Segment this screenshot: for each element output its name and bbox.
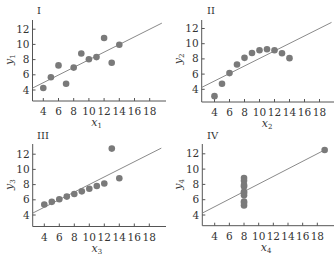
- anscombe-quartet-chart: 46810121416184681012Ix1y1 46810121416184…: [0, 0, 336, 261]
- y-tick-label: 10: [16, 38, 29, 50]
- data-point: [256, 47, 263, 54]
- data-point: [101, 180, 108, 187]
- y-tick-label: 8: [192, 52, 199, 64]
- data-point: [93, 54, 100, 61]
- x-tick-label: 6: [226, 230, 233, 242]
- data-point: [321, 147, 328, 154]
- x-tick-label: 8: [70, 105, 77, 117]
- y-tick-label: 12: [16, 148, 29, 160]
- data-point: [108, 59, 115, 66]
- data-point: [86, 56, 93, 63]
- x-axis-label: x3: [91, 242, 102, 256]
- data-point: [64, 193, 71, 200]
- x-tick-label: 16: [296, 230, 310, 242]
- x-tick-label: 16: [128, 105, 142, 117]
- data-point: [86, 185, 93, 192]
- data-point: [286, 55, 293, 62]
- data-point: [79, 188, 86, 195]
- y-tick-label: 4: [23, 84, 30, 96]
- data-point: [63, 80, 70, 87]
- y-tick-label: 4: [193, 209, 200, 221]
- y-tick-label: 8: [23, 53, 30, 65]
- y-tick-label: 6: [193, 193, 200, 205]
- panel-4: 46810121416184681012IVx4y4: [172, 130, 334, 255]
- x-tick-label: 18: [143, 105, 156, 117]
- x-tick-label: 12: [97, 105, 110, 117]
- y-tick-label: 12: [185, 22, 198, 34]
- y-tick-label: 6: [23, 193, 30, 205]
- data-point: [71, 191, 78, 198]
- y-axis-label: y4: [172, 179, 186, 191]
- data-point: [211, 93, 218, 100]
- panel-title: II: [207, 5, 215, 16]
- data-point: [101, 35, 108, 42]
- y-axis-label: y1: [3, 54, 17, 66]
- panel-title: I: [37, 5, 41, 16]
- data-point: [56, 196, 63, 203]
- x-tick-label: 4: [211, 106, 218, 118]
- x-axis-label: x2: [262, 117, 273, 131]
- x-tick-label: 6: [56, 231, 63, 243]
- y-tick-label: 4: [192, 83, 199, 95]
- data-point: [40, 85, 47, 92]
- x-tick-label: 16: [128, 231, 142, 243]
- y-axis-label: y3: [3, 179, 17, 191]
- regression-line: [202, 149, 326, 213]
- data-point: [109, 145, 116, 152]
- y-tick-label: 10: [186, 163, 199, 175]
- data-point: [241, 55, 248, 62]
- data-point: [49, 199, 56, 206]
- data-point: [241, 190, 248, 197]
- x-tick-label: 16: [298, 106, 312, 118]
- x-tick-label: 18: [311, 230, 324, 242]
- data-point: [226, 70, 233, 77]
- x-tick-label: 8: [241, 106, 248, 118]
- x-tick-label: 4: [41, 231, 48, 243]
- data-point: [55, 62, 62, 69]
- panel-title: IV: [207, 130, 219, 141]
- x-tick-label: 14: [113, 105, 127, 117]
- panel-2: 46810121416184681012IIx2y2: [172, 5, 334, 131]
- x-axis-label: x4: [261, 241, 272, 255]
- y-axis-label: y2: [172, 54, 186, 66]
- data-point: [94, 183, 101, 190]
- data-point: [116, 41, 123, 48]
- x-axis-label: x1: [91, 116, 102, 130]
- data-point: [116, 175, 123, 182]
- x-tick-label: 18: [313, 106, 326, 118]
- x-tick-label: 14: [281, 230, 295, 242]
- x-tick-label: 12: [267, 230, 280, 242]
- x-tick-label: 8: [71, 231, 78, 243]
- data-point: [219, 80, 226, 87]
- data-point: [78, 50, 85, 57]
- regression-line: [202, 22, 332, 87]
- y-tick-label: 10: [16, 163, 29, 175]
- x-tick-label: 14: [113, 231, 127, 243]
- y-tick-label: 8: [23, 178, 30, 190]
- y-tick-label: 12: [16, 23, 29, 35]
- y-tick-label: 4: [23, 209, 30, 221]
- panel-1: 46810121416184681012Ix1y1: [3, 5, 167, 130]
- data-point: [48, 74, 55, 81]
- data-point: [241, 182, 248, 189]
- y-tick-label: 6: [192, 68, 199, 80]
- y-tick-label: 8: [193, 178, 200, 190]
- y-tick-label: 10: [185, 37, 198, 49]
- panel-title: III: [37, 130, 49, 141]
- data-point: [249, 50, 256, 57]
- x-tick-label: 4: [211, 230, 218, 242]
- x-tick-label: 8: [241, 230, 248, 242]
- data-point: [241, 200, 248, 207]
- x-tick-label: 18: [143, 231, 156, 243]
- data-point: [70, 64, 77, 71]
- x-tick-label: 12: [98, 231, 111, 243]
- y-tick-label: 6: [23, 68, 30, 80]
- data-point: [41, 201, 48, 208]
- data-point: [271, 47, 278, 54]
- x-tick-label: 6: [226, 106, 233, 118]
- data-point: [264, 46, 271, 53]
- panel-3: 46810121416184681012IIIx3y3: [3, 130, 166, 256]
- data-point: [279, 50, 286, 57]
- x-tick-label: 6: [55, 105, 62, 117]
- x-tick-label: 14: [283, 106, 297, 118]
